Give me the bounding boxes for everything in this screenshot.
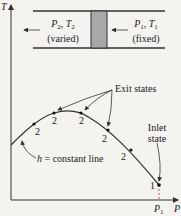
state-label: 1: [150, 180, 155, 191]
constant-enthalpy-curve: [11, 111, 159, 185]
constant-line-text: = constant line: [42, 153, 103, 164]
inlet-state-label: Inlet state: [144, 122, 170, 144]
inlet-conditions-label: P1, T1 (fixed): [128, 18, 164, 44]
state-label: 2: [79, 115, 84, 126]
p-axis-label: P: [174, 203, 180, 214]
exit-leader-arrow: [58, 90, 112, 110]
p1-subscript: 1: [160, 208, 164, 216]
porous-plug: [91, 11, 107, 48]
t1-sub: 1: [154, 23, 158, 31]
exit-state-point: [129, 148, 132, 151]
exit-leader-arrow: [85, 90, 112, 110]
p1-tick-label: P1: [154, 203, 164, 216]
t2-sub: 2: [71, 23, 75, 31]
state-label: 2: [52, 115, 57, 126]
inlet-word: Inlet: [144, 122, 170, 133]
h-constant-label: h = constant line: [37, 153, 103, 164]
exit-leader-arrow: [108, 90, 112, 126]
state-label: 2: [121, 151, 126, 162]
state-label: 2: [102, 133, 107, 144]
inlet-leader-arrow: [157, 143, 160, 181]
varied-note: (varied): [43, 33, 83, 44]
fixed-note: (fixed): [128, 33, 164, 44]
exit-state-point: [106, 128, 109, 131]
outlet-conditions-label: P2, T2 (varied): [43, 18, 83, 44]
t-axis-label: T: [1, 1, 7, 12]
exit-states-label: Exit states: [115, 83, 156, 94]
state-label: 2: [35, 126, 40, 137]
inlet-state-point: [157, 183, 161, 187]
state-word: state: [144, 133, 170, 144]
h-const-leader-arrow: [22, 141, 36, 158]
